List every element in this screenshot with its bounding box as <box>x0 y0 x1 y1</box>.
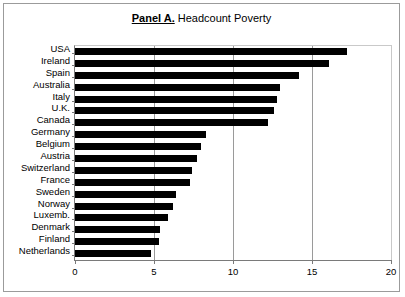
figure-panel: Panel A.Headcount Poverty USAIrelandSpai… <box>3 3 400 292</box>
bar <box>75 96 277 103</box>
bar <box>75 179 190 186</box>
bar-row: Netherlands <box>75 248 391 260</box>
bar <box>75 48 347 55</box>
category-label-denmark: Denmark <box>31 221 70 233</box>
bar-row: Belgium <box>75 141 391 153</box>
x-tick-20 <box>391 260 392 264</box>
x-tick-label-20: 20 <box>386 266 397 277</box>
bar <box>75 143 201 150</box>
category-label-netherlands: Netherlands <box>19 245 70 257</box>
category-label-belgium: Belgium <box>36 138 70 150</box>
bar <box>75 119 268 126</box>
plot-area: USAIrelandSpainAustraliaItalyU.K.CanadaG… <box>74 45 392 261</box>
bar-row: Sweden <box>75 189 391 201</box>
bar-row: Switzerland <box>75 165 391 177</box>
bar <box>75 84 280 91</box>
bar-row: Ireland <box>75 58 391 70</box>
bar <box>75 60 329 67</box>
category-label-finland: Finland <box>39 233 70 245</box>
category-label-canada: Canada <box>37 114 70 126</box>
category-label-australia: Australia <box>33 79 70 91</box>
bar <box>75 203 173 210</box>
bar <box>75 250 151 257</box>
category-label-usa: USA <box>50 43 70 55</box>
bar-row: Austria <box>75 153 391 165</box>
bar-row: Finland <box>75 236 391 248</box>
bar <box>75 226 160 233</box>
bar-row: USA <box>75 46 391 58</box>
x-tick-label-10: 10 <box>228 266 239 277</box>
x-tick-label-5: 5 <box>151 266 156 277</box>
bar-row: U.K. <box>75 105 391 117</box>
category-label-italy: Italy <box>53 91 70 103</box>
bar-row: Germany <box>75 129 391 141</box>
bar-row: Denmark <box>75 224 391 236</box>
x-tick-label-0: 0 <box>72 266 77 277</box>
chart-title-text: Headcount Poverty <box>178 12 272 24</box>
bar-row: France <box>75 177 391 189</box>
bar-row: Spain <box>75 70 391 82</box>
x-tick-0 <box>75 260 76 264</box>
x-tick-10 <box>233 260 234 264</box>
bar-row: Luxemb. <box>75 212 391 224</box>
category-label-luxemb: Luxemb. <box>34 209 70 221</box>
bar-row: Italy <box>75 94 391 106</box>
category-label-norway: Norway <box>38 198 70 210</box>
bar <box>75 72 299 79</box>
bar-row: Canada <box>75 117 391 129</box>
category-label-france: France <box>40 174 70 186</box>
bar-row: Norway <box>75 201 391 213</box>
bar <box>75 191 176 198</box>
category-label-u-k: U.K. <box>52 102 70 114</box>
bar <box>75 131 206 138</box>
x-tick-15 <box>312 260 313 264</box>
category-label-switzerland: Switzerland <box>21 162 70 174</box>
bar <box>75 214 168 221</box>
bar <box>75 155 197 162</box>
category-label-ireland: Ireland <box>41 55 70 67</box>
category-label-austria: Austria <box>40 150 70 162</box>
category-label-sweden: Sweden <box>36 186 70 198</box>
category-label-spain: Spain <box>46 67 70 79</box>
panel-label: Panel A. <box>132 12 175 24</box>
x-tick-5 <box>154 260 155 264</box>
bar-row: Australia <box>75 82 391 94</box>
bar <box>75 167 192 174</box>
bar <box>75 107 274 114</box>
chart-title: Panel A.Headcount Poverty <box>4 12 399 24</box>
x-tick-label-15: 15 <box>307 266 318 277</box>
bar <box>75 238 159 245</box>
category-label-germany: Germany <box>31 126 70 138</box>
